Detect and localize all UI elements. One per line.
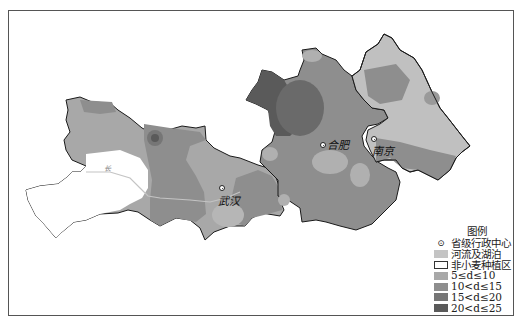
class-15-20-swatch-icon [434,293,448,301]
city-label-hefei: 合肥 [327,136,349,152]
non-wheat-swatch-icon [434,261,448,269]
river-label: 长 [104,163,111,173]
class-20-25-swatch-icon [434,304,448,312]
legend-item-water: 河流及湖泊 [434,249,516,260]
legend-title: 图例 [434,226,516,237]
region-hubei-nw-10-15 [80,100,116,114]
water-swatch-icon [434,250,448,258]
legend: 图例 ⊙ 省级行政中心 河流及湖泊 非小麦种植区 5≤d≤10 10<d≤15 … [434,226,516,314]
class-10-15-swatch-icon [434,283,448,291]
legend-label: 20<d≤25 [451,303,502,314]
city-label-wuhan: 武汉 [218,192,240,208]
capital-point-icon: ⊙ [434,238,448,249]
region-anhui-15-20 [276,80,324,136]
class-5-10-swatch-icon [434,272,448,280]
city-label-nanjing: 南京 [372,142,394,158]
city-marker-hefei [320,142,326,148]
legend-item-20-25: 20<d≤25 [434,303,516,314]
city-marker-wuhan [219,185,225,191]
